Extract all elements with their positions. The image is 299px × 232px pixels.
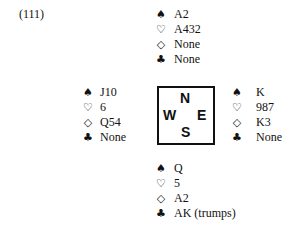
compass-south: S <box>181 125 190 139</box>
heart-icon: ♡ <box>155 22 167 37</box>
east-diamonds: K3 <box>256 115 271 130</box>
spade-icon: ♠ <box>155 7 167 22</box>
south-clubs: AK (trumps) <box>174 206 236 221</box>
heart-icon: ♡ <box>82 100 94 115</box>
club-icon: ♣ <box>82 130 94 145</box>
compass-west: W <box>163 108 176 122</box>
diamond-icon: ◇ <box>82 115 94 130</box>
diamond-icon: ◇ <box>155 191 167 206</box>
club-icon: ♣ <box>231 130 243 145</box>
problem-number: (111) <box>19 7 44 21</box>
south-spades: Q <box>174 161 183 176</box>
east-spades: K <box>256 85 265 100</box>
west-hearts: 6 <box>100 100 106 115</box>
spade-icon: ♠ <box>231 85 243 100</box>
spade-icon: ♠ <box>82 85 94 100</box>
north-diamonds: None <box>174 37 200 52</box>
east-hearts: 987 <box>256 100 274 115</box>
compass-east: E <box>197 108 206 122</box>
diamond-icon: ◇ <box>231 115 243 130</box>
north-clubs: None <box>174 52 200 67</box>
west-clubs: None <box>100 130 126 145</box>
east-clubs: None <box>256 130 282 145</box>
compass-north: N <box>180 91 190 105</box>
compass-box: N W E S <box>157 86 215 145</box>
north-spades: A2 <box>174 7 189 22</box>
diamond-icon: ◇ <box>155 37 167 52</box>
heart-icon: ♡ <box>231 100 243 115</box>
south-hearts: 5 <box>174 176 180 191</box>
west-spades: J10 <box>100 85 117 100</box>
club-icon: ♣ <box>155 52 167 67</box>
west-diamonds: Q54 <box>100 115 121 130</box>
south-diamonds: A2 <box>174 191 189 206</box>
spade-icon: ♠ <box>155 161 167 176</box>
heart-icon: ♡ <box>155 176 167 191</box>
club-icon: ♣ <box>155 206 167 221</box>
north-hearts: A432 <box>174 22 201 37</box>
